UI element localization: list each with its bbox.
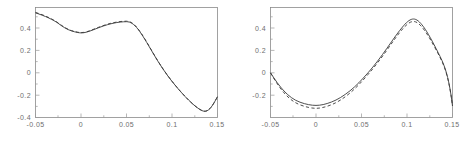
yticklabel: 0.2 [20, 47, 31, 54]
xticklabel: 0.1 [167, 121, 178, 128]
left-plot: -0.05 0 0.05 0.1 0.15 0.4 0.2 0 -0.2 -0.… [0, 0, 234, 142]
left-plot-yticks [36, 17, 40, 118]
yticklabel: 0.4 [255, 25, 266, 32]
left-plot-xticks [36, 114, 218, 118]
xticklabel: 0 [314, 121, 318, 128]
right-plot-curve-solid [271, 19, 453, 106]
xticklabel: -0.05 [27, 121, 45, 128]
right-plot-yticklabels: 0.4 0.2 0 -0.2 [252, 25, 266, 99]
right-plot-curve-dashed [271, 22, 453, 109]
left-plot-curve-dashed [36, 12, 218, 111]
figure-two-panel-plot: -0.05 0 0.05 0.1 0.15 0.4 0.2 0 -0.2 -0.… [0, 0, 467, 142]
xticklabel: 0.15 [209, 121, 224, 128]
left-plot-frame [36, 8, 218, 118]
yticklabel: 0 [27, 69, 31, 76]
yticklabel: 0 [262, 69, 266, 76]
xticklabel: 0.15 [444, 121, 459, 128]
xticklabel: 0 [79, 121, 83, 128]
right-plot-xticklabels: -0.05 0 0.05 0.1 0.15 [262, 121, 460, 128]
left-plot-canvas: -0.05 0 0.05 0.1 0.15 0.4 0.2 0 -0.2 -0.… [0, 0, 234, 142]
right-plot-yticks [271, 17, 275, 107]
xticklabel: 0.05 [354, 121, 369, 128]
xticklabel: 0.05 [119, 121, 134, 128]
right-plot-canvas: -0.05 0 0.05 0.1 0.15 0.4 0.2 0 -0.2 [234, 0, 467, 142]
yticklabel: -0.2 [17, 92, 31, 99]
xticklabel: 0.1 [402, 121, 413, 128]
left-plot-curve-solid [36, 13, 218, 111]
yticklabel: -0.4 [17, 114, 31, 121]
xticklabel: -0.05 [262, 121, 280, 128]
yticklabel: -0.2 [252, 92, 266, 99]
right-plot: -0.05 0 0.05 0.1 0.15 0.4 0.2 0 -0.2 [234, 0, 467, 142]
left-plot-yticklabels: 0.4 0.2 0 -0.2 -0.4 [17, 25, 31, 122]
left-plot-xticklabels: -0.05 0 0.05 0.1 0.15 [27, 121, 225, 128]
yticklabel: 0.4 [20, 25, 31, 32]
yticklabel: 0.2 [255, 47, 266, 54]
right-plot-xticks [271, 114, 453, 118]
